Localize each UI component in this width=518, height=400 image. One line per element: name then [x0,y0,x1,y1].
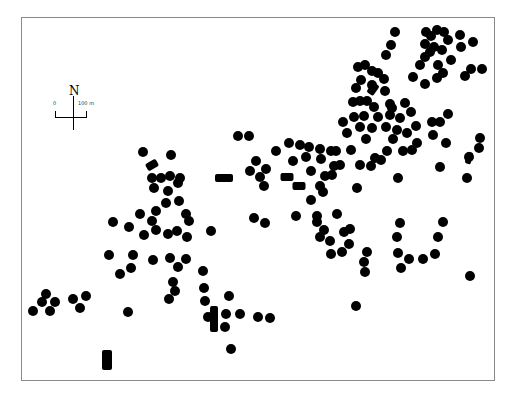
site-marker [332,209,342,219]
scale-bar [55,117,87,118]
rectangular-structure [293,182,306,190]
map-frame [21,17,495,381]
site-marker [220,322,230,332]
scale-start-label: 0 [53,100,56,106]
site-marker [306,195,316,205]
site-marker [315,232,325,242]
site-marker [151,206,161,216]
site-marker [373,112,383,122]
site-marker [165,253,175,263]
site-marker [245,166,255,176]
site-marker [138,147,148,157]
site-marker [415,60,425,70]
site-marker [353,62,363,72]
site-marker [224,291,234,301]
site-marker [395,218,405,228]
site-marker [362,247,372,257]
site-marker [28,306,38,316]
site-marker [359,111,369,121]
site-marker [326,146,336,156]
site-marker [124,222,134,232]
site-marker [435,162,445,172]
site-marker [379,74,389,84]
site-marker [393,173,403,183]
site-marker [199,283,209,293]
site-marker [320,171,330,181]
site-marker [316,154,326,164]
site-marker [68,294,78,304]
site-marker [406,107,416,117]
site-marker [182,232,192,242]
site-marker [345,224,355,234]
site-marker [164,294,174,304]
site-marker [315,144,325,154]
site-marker [433,232,443,242]
site-marker [443,35,453,45]
site-marker [348,97,358,107]
site-marker [123,307,133,317]
site-marker [251,156,261,166]
site-marker [477,64,487,74]
site-marker [404,254,414,264]
site-marker [349,112,359,122]
site-marker [163,186,173,196]
site-marker [392,125,402,135]
site-marker [235,309,245,319]
site-marker [318,187,328,197]
site-marker [468,37,478,47]
site-marker [428,130,438,140]
site-marker [466,64,476,74]
site-marker [430,249,440,259]
rectangular-structure [215,174,233,182]
site-marker [392,232,402,242]
site-marker [306,166,316,176]
site-marker [184,216,194,226]
site-marker [198,266,208,276]
rectangular-structure [281,173,294,181]
site-marker [253,312,263,322]
north-label: N [69,84,80,98]
rectangular-structure [102,350,112,370]
site-marker [418,254,428,264]
site-marker [249,213,259,223]
site-marker [369,102,379,112]
site-marker [390,27,400,37]
site-marker [181,254,191,264]
site-marker [376,155,386,165]
site-marker [437,45,447,55]
site-marker [381,122,391,132]
site-marker [381,50,391,60]
site-marker [387,103,397,113]
site-marker [474,143,484,153]
site-marker [50,297,60,307]
site-marker [174,196,184,206]
site-marker [435,117,445,127]
site-marker [200,296,210,306]
site-marker [338,117,348,127]
north-arrow-icon [73,96,74,130]
site-marker [355,122,365,132]
site-marker [108,217,118,227]
site-marker [412,138,422,148]
site-marker [260,218,270,228]
site-marker [455,30,465,40]
site-marker [173,262,183,272]
site-marker [288,156,298,166]
site-marker [329,161,339,171]
site-marker [45,306,55,316]
site-marker [438,217,448,227]
site-marker [139,230,149,240]
site-marker [126,263,136,273]
site-marker [393,248,403,258]
site-marker [284,138,294,148]
site-marker [396,263,406,273]
site-marker [367,123,377,133]
site-marker [346,145,356,155]
site-marker [265,313,275,323]
site-marker [151,225,161,235]
site-marker [161,198,171,208]
site-marker [351,83,361,93]
site-marker [395,113,405,123]
site-marker [351,301,361,311]
site-marker [425,47,435,57]
